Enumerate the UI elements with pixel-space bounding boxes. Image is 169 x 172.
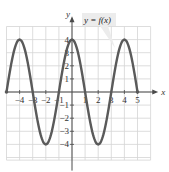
x-tick-label: −4: [15, 95, 25, 105]
function-label: y = f(x): [83, 15, 111, 25]
y-axis-arrow-icon: [70, 16, 75, 22]
y-tick-label: −1: [59, 100, 69, 110]
y-tick-label: −2: [59, 113, 69, 123]
y-tick-label: −3: [59, 126, 69, 136]
y-axis-label: y: [65, 9, 70, 19]
y-tick-label: 1: [65, 74, 70, 84]
y-tick-label: 2: [65, 61, 70, 71]
endpoint-right: [136, 90, 140, 94]
function-graph: xy−4−3−2−112345−4−3−2−11234y = f(x): [0, 0, 169, 172]
endpoint-left: [5, 90, 9, 94]
x-tick-label: 5: [135, 95, 140, 105]
function-label-pointer: [100, 26, 115, 48]
x-tick-label: 2: [96, 95, 101, 105]
y-tick-label: −4: [59, 139, 69, 149]
x-axis-arrow-icon: [152, 90, 158, 95]
x-tick-label: −2: [41, 95, 51, 105]
x-tick-label: 4: [122, 95, 127, 105]
x-axis-label: x: [160, 87, 165, 97]
